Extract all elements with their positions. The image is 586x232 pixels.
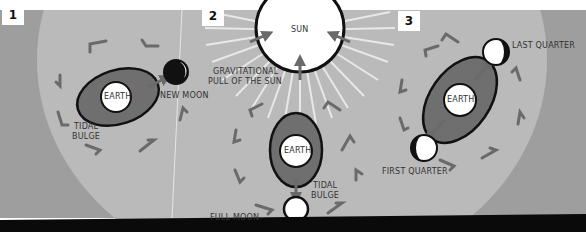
panel-number-3: 3 bbox=[398, 11, 420, 31]
panel-number-2: 2 bbox=[202, 6, 224, 26]
new-moon-label: NEW MOON bbox=[160, 91, 209, 101]
full-moon-label: FULL MOON bbox=[210, 213, 259, 223]
gravitational-pull-label-b: PULL OF THE SUN bbox=[208, 77, 282, 87]
earth-label-3: EARTH bbox=[447, 95, 474, 105]
tidal-bulge-label-2b: BULGE bbox=[311, 191, 339, 201]
earth-label-2: EARTH bbox=[284, 146, 311, 156]
panel-number-1: 1 bbox=[2, 5, 24, 25]
tidal-bulge-label-1b: BULGE bbox=[72, 132, 100, 142]
tidal-bulge-label-1a: TIDAL bbox=[74, 122, 98, 132]
last-quarter-label: LAST QUARTER bbox=[512, 41, 575, 51]
earth-label-1: EARTH bbox=[104, 92, 131, 102]
new-moon-icon bbox=[163, 59, 189, 85]
tides-diagram: 1 2 3 EARTH NEW MOON TIDAL BULGE SUN GRA… bbox=[0, 0, 586, 232]
first-quarter-label: FIRST QUARTER bbox=[382, 167, 448, 177]
tidal-bulge-label-2a: TIDAL bbox=[313, 181, 337, 191]
gravitational-pull-label-a: GRAVITATIONAL bbox=[213, 67, 278, 77]
sun-label: SUN bbox=[291, 25, 309, 35]
